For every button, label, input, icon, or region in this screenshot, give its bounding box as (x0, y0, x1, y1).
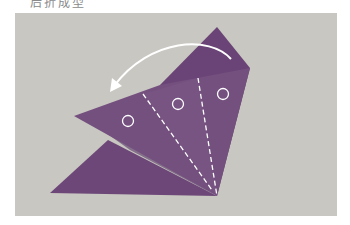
origami-illustration (0, 0, 350, 225)
arrow-head-icon (110, 78, 122, 92)
